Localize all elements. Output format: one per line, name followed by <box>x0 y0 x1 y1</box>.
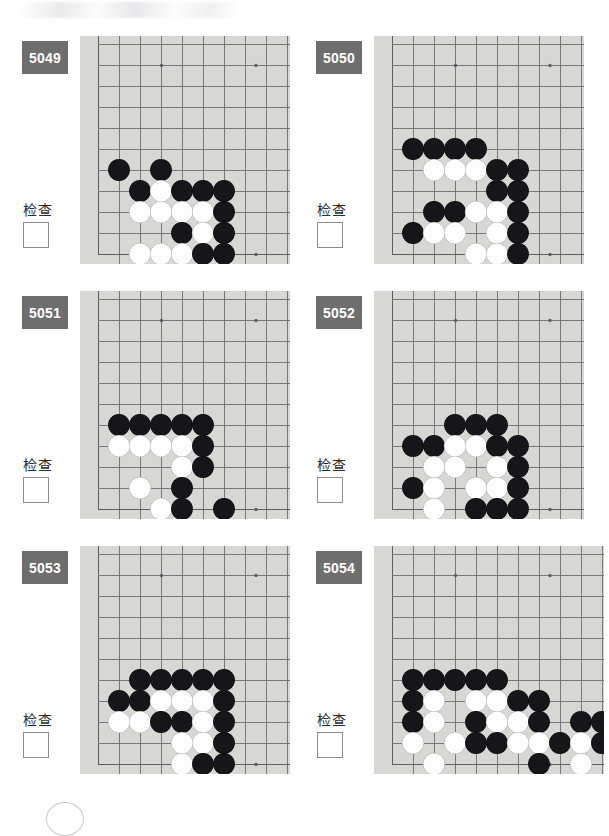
white-stone[interactable] <box>130 244 151 265</box>
black-stone[interactable] <box>487 436 508 457</box>
check-checkbox[interactable] <box>317 732 343 758</box>
black-stone[interactable] <box>130 670 151 691</box>
black-stone[interactable] <box>109 160 130 181</box>
black-stone[interactable] <box>508 160 529 181</box>
black-stone[interactable] <box>109 691 130 712</box>
go-board[interactable] <box>374 546 604 774</box>
black-stone[interactable] <box>487 499 508 520</box>
white-stone[interactable] <box>151 202 172 223</box>
white-stone[interactable] <box>487 244 508 265</box>
white-stone[interactable] <box>445 436 466 457</box>
black-stone[interactable] <box>172 670 193 691</box>
black-stone[interactable] <box>172 712 193 733</box>
white-stone[interactable] <box>466 691 487 712</box>
white-stone[interactable] <box>403 733 424 754</box>
black-stone[interactable] <box>550 733 571 754</box>
go-board[interactable] <box>80 291 290 519</box>
black-stone[interactable] <box>466 670 487 691</box>
black-stone[interactable] <box>172 181 193 202</box>
black-stone[interactable] <box>466 139 487 160</box>
black-stone[interactable] <box>508 223 529 244</box>
black-stone[interactable] <box>487 733 508 754</box>
check-checkbox[interactable] <box>23 477 49 503</box>
black-stone[interactable] <box>151 712 172 733</box>
black-stone[interactable] <box>214 754 235 775</box>
white-stone[interactable] <box>487 457 508 478</box>
black-stone[interactable] <box>193 181 214 202</box>
black-stone[interactable] <box>193 754 214 775</box>
black-stone[interactable] <box>130 691 151 712</box>
black-stone[interactable] <box>445 139 466 160</box>
black-stone[interactable] <box>130 415 151 436</box>
white-stone[interactable] <box>487 478 508 499</box>
black-stone[interactable] <box>172 223 193 244</box>
black-stone[interactable] <box>151 670 172 691</box>
white-stone[interactable] <box>466 160 487 181</box>
white-stone[interactable] <box>466 436 487 457</box>
white-stone[interactable] <box>508 733 529 754</box>
white-stone[interactable] <box>571 754 592 775</box>
black-stone[interactable] <box>214 181 235 202</box>
white-stone[interactable] <box>508 712 529 733</box>
white-stone[interactable] <box>445 160 466 181</box>
black-stone[interactable] <box>193 415 214 436</box>
black-stone[interactable] <box>508 691 529 712</box>
black-stone[interactable] <box>151 160 172 181</box>
white-stone[interactable] <box>151 499 172 520</box>
white-stone[interactable] <box>571 733 592 754</box>
go-board[interactable] <box>80 36 290 264</box>
go-board[interactable] <box>80 546 290 774</box>
black-stone[interactable] <box>214 244 235 265</box>
white-stone[interactable] <box>130 712 151 733</box>
white-stone[interactable] <box>130 436 151 457</box>
white-stone[interactable] <box>172 457 193 478</box>
black-stone[interactable] <box>487 181 508 202</box>
black-stone[interactable] <box>193 457 214 478</box>
black-stone[interactable] <box>508 478 529 499</box>
white-stone[interactable] <box>424 160 445 181</box>
white-stone[interactable] <box>445 223 466 244</box>
black-stone[interactable] <box>151 415 172 436</box>
white-stone[interactable] <box>424 499 445 520</box>
white-stone[interactable] <box>193 733 214 754</box>
go-board[interactable] <box>374 36 584 264</box>
check-checkbox[interactable] <box>23 222 49 248</box>
black-stone[interactable] <box>193 670 214 691</box>
white-stone[interactable] <box>193 202 214 223</box>
black-stone[interactable] <box>445 670 466 691</box>
black-stone[interactable] <box>214 691 235 712</box>
black-stone[interactable] <box>403 436 424 457</box>
white-stone[interactable] <box>466 244 487 265</box>
check-checkbox[interactable] <box>317 222 343 248</box>
white-stone[interactable] <box>466 478 487 499</box>
black-stone[interactable] <box>424 436 445 457</box>
white-stone[interactable] <box>130 202 151 223</box>
black-stone[interactable] <box>529 691 550 712</box>
black-stone[interactable] <box>403 223 424 244</box>
white-stone[interactable] <box>151 244 172 265</box>
white-stone[interactable] <box>172 436 193 457</box>
white-stone[interactable] <box>109 436 130 457</box>
white-stone[interactable] <box>172 202 193 223</box>
black-stone[interactable] <box>172 478 193 499</box>
white-stone[interactable] <box>151 691 172 712</box>
black-stone[interactable] <box>466 712 487 733</box>
white-stone[interactable] <box>424 691 445 712</box>
black-stone[interactable] <box>214 202 235 223</box>
black-stone[interactable] <box>130 181 151 202</box>
white-stone[interactable] <box>424 712 445 733</box>
black-stone[interactable] <box>571 712 592 733</box>
white-stone[interactable] <box>424 457 445 478</box>
black-stone[interactable] <box>424 139 445 160</box>
white-stone[interactable] <box>529 733 550 754</box>
black-stone[interactable] <box>172 499 193 520</box>
black-stone[interactable] <box>403 712 424 733</box>
black-stone[interactable] <box>529 712 550 733</box>
black-stone[interactable] <box>403 670 424 691</box>
white-stone[interactable] <box>445 457 466 478</box>
black-stone[interactable] <box>214 733 235 754</box>
black-stone[interactable] <box>508 499 529 520</box>
white-stone[interactable] <box>172 754 193 775</box>
black-stone[interactable] <box>445 202 466 223</box>
white-stone[interactable] <box>130 478 151 499</box>
